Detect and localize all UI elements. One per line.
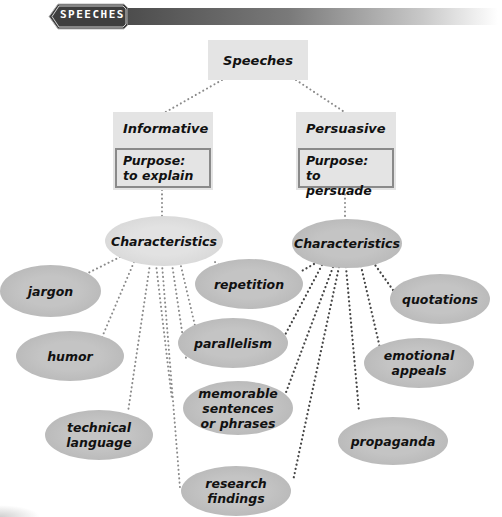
root-label: Speeches	[223, 53, 293, 68]
node-repetition-label: repetition	[214, 277, 284, 292]
node-jargon-label: jargon	[28, 284, 73, 299]
node-repetition: repetition	[195, 259, 303, 309]
node-memorable-sentences-label: memorable sentences or phrases	[196, 386, 280, 431]
node-parallelism: parallelism	[178, 318, 288, 368]
node-propaganda-label: propaganda	[351, 434, 436, 449]
informative-characteristics-label: Characteristics	[111, 234, 217, 249]
node-research-findings-label: research findings	[201, 476, 271, 506]
root-node-speeches: Speeches	[208, 40, 308, 80]
node-emotional-appeals: emotional appeals	[364, 338, 474, 388]
informative-purpose-box: Purpose: to explain	[115, 148, 211, 188]
node-memorable-sentences: memorable sentences or phrases	[183, 381, 293, 435]
informative-characteristics-node: Characteristics	[105, 216, 223, 266]
node-technical-language-label: technical language	[64, 420, 134, 450]
node-quotations: quotations	[390, 274, 490, 324]
branch-persuasive-title: Persuasive	[306, 121, 386, 136]
persuasive-purpose-box: Purpose: to persuade	[298, 148, 394, 188]
node-propaganda: propaganda	[338, 417, 448, 465]
node-jargon: jargon	[0, 265, 101, 317]
persuasive-characteristics-node: Characteristics	[292, 219, 402, 268]
node-quotations-label: quotations	[402, 292, 478, 307]
node-parallelism-label: parallelism	[194, 336, 272, 351]
branch-persuasive: Persuasive Purpose: to persuade	[296, 112, 396, 190]
node-research-findings: research findings	[181, 466, 291, 516]
node-humor-label: humor	[47, 349, 93, 364]
node-humor: humor	[16, 331, 124, 381]
page-corner-shadow	[0, 505, 40, 517]
node-technical-language: technical language	[45, 410, 153, 460]
branch-informative-title: Informative	[123, 121, 208, 136]
branch-informative: Informative Purpose: to explain	[113, 112, 213, 190]
node-emotional-appeals-label: emotional appeals	[379, 348, 459, 378]
persuasive-characteristics-label: Characteristics	[294, 236, 400, 251]
